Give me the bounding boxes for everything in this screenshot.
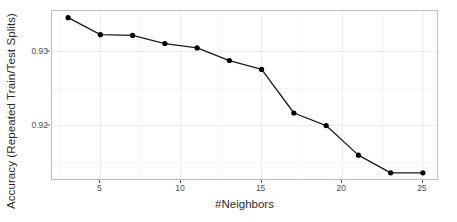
x-tick-label: 10 (165, 183, 195, 193)
data-point (388, 170, 393, 175)
x-tick-mark (180, 180, 181, 183)
data-point (420, 170, 425, 175)
data-point (324, 123, 329, 128)
data-point (356, 153, 361, 158)
x-tick-label: 15 (246, 183, 276, 193)
data-point (130, 33, 135, 38)
data-point (291, 110, 296, 115)
y-tick-mark (47, 50, 50, 51)
grid-minor-lines (52, 11, 438, 180)
data-point (227, 58, 232, 63)
x-tick-label: 25 (407, 183, 437, 193)
x-tick-mark (99, 180, 100, 183)
data-point-markers (66, 15, 426, 175)
grid-major-lines (52, 11, 438, 180)
chart-figure: Accuracy (Repeated Train/Test Splits) 0.… (0, 0, 457, 222)
plot-panel (51, 10, 438, 180)
data-point (259, 67, 264, 72)
plot-svg (52, 11, 438, 180)
y-tick-label: 0.92 (14, 120, 48, 130)
y-tick-mark (47, 124, 50, 125)
x-tick-mark (422, 180, 423, 183)
x-tick-mark (341, 180, 342, 183)
y-tick-label: 0.93 (14, 46, 48, 56)
x-tick-label: 5 (84, 183, 114, 193)
x-tick-label: 20 (326, 183, 356, 193)
data-line-series (68, 18, 423, 173)
y-axis-tick-labels: 0.920.93 (8, 0, 48, 222)
data-point (98, 32, 103, 37)
data-point (66, 15, 71, 20)
x-tick-mark (261, 180, 262, 183)
data-point (162, 41, 167, 46)
data-point (195, 45, 200, 50)
x-axis-title: #Neighbors (51, 198, 438, 210)
